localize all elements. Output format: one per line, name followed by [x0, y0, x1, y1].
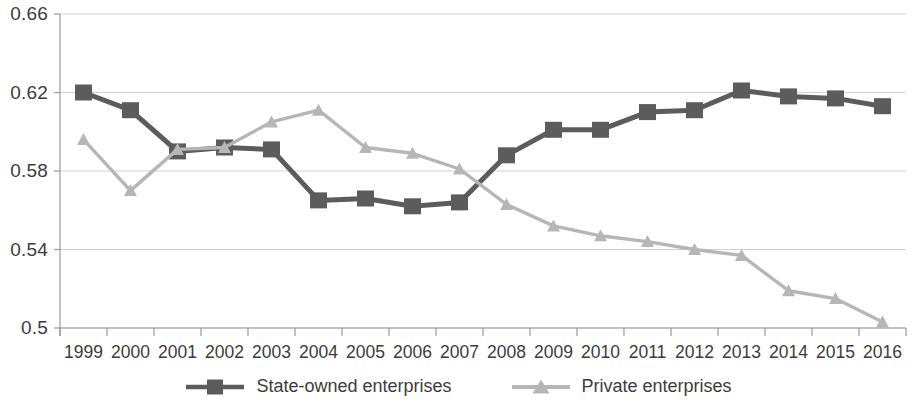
gridlines: [60, 14, 906, 328]
legend-item-private[interactable]: Private enterprises: [510, 376, 732, 397]
x-axis-label-2005: 2005: [346, 344, 385, 362]
x-axis-label-2011: 2011: [629, 344, 667, 362]
x-axis-label-2010: 2010: [581, 344, 620, 362]
data-point-square[interactable]: [592, 122, 609, 138]
x-axis-tick-marks: [60, 328, 906, 336]
x-axis-label-2013: 2013: [722, 344, 761, 362]
x-axis-label-2009: 2009: [534, 344, 573, 362]
data-point-square[interactable]: [686, 102, 703, 118]
data-point-square[interactable]: [404, 198, 421, 214]
x-axis-label-2006: 2006: [393, 344, 432, 362]
data-point-square[interactable]: [827, 90, 844, 106]
data-point-square[interactable]: [263, 141, 280, 157]
legend-item-state-owned[interactable]: State-owned enterprises: [184, 376, 451, 397]
line-chart: 0.660.620.580.540.5 19992000200120022003…: [0, 0, 916, 409]
chart-legend: State-owned enterprises Private enterpri…: [0, 376, 916, 397]
x-axis-label-2003: 2003: [252, 344, 291, 362]
x-axis-label-2001: 2001: [158, 344, 197, 362]
x-axis-label-2016: 2016: [863, 344, 902, 362]
x-axis-label-2015: 2015: [816, 344, 855, 362]
data-point-triangle[interactable]: [77, 133, 90, 145]
legend-label-private: Private enterprises: [582, 376, 732, 397]
data-point-square[interactable]: [733, 83, 750, 99]
data-point-square[interactable]: [451, 194, 468, 210]
x-axis-label-2012: 2012: [675, 344, 714, 362]
x-axis-label-2008: 2008: [487, 344, 526, 362]
series-layer: [75, 83, 891, 328]
square-marker-icon: [184, 378, 246, 396]
data-point-square[interactable]: [498, 147, 515, 163]
data-point-square[interactable]: [639, 104, 656, 120]
x-axis-label-2007: 2007: [440, 344, 479, 362]
legend-label-state-owned: State-owned enterprises: [256, 376, 451, 397]
axis-lines: [54, 14, 906, 336]
data-point-square[interactable]: [874, 98, 891, 114]
x-axis-label-1999: 1999: [64, 344, 103, 362]
series-private: [77, 104, 889, 328]
data-point-square[interactable]: [75, 85, 92, 101]
x-axis-label-2002: 2002: [205, 344, 244, 362]
triangle-marker-icon: [510, 378, 572, 396]
data-point-square[interactable]: [545, 122, 562, 138]
data-point-square[interactable]: [310, 192, 327, 208]
data-point-square[interactable]: [357, 191, 374, 207]
x-axis-label-2000: 2000: [111, 344, 150, 362]
series-line: [84, 110, 883, 322]
x-axis-label-2004: 2004: [299, 344, 338, 362]
x-axis-label-2014: 2014: [769, 344, 808, 362]
data-point-square[interactable]: [122, 102, 139, 118]
data-point-square[interactable]: [780, 88, 797, 104]
